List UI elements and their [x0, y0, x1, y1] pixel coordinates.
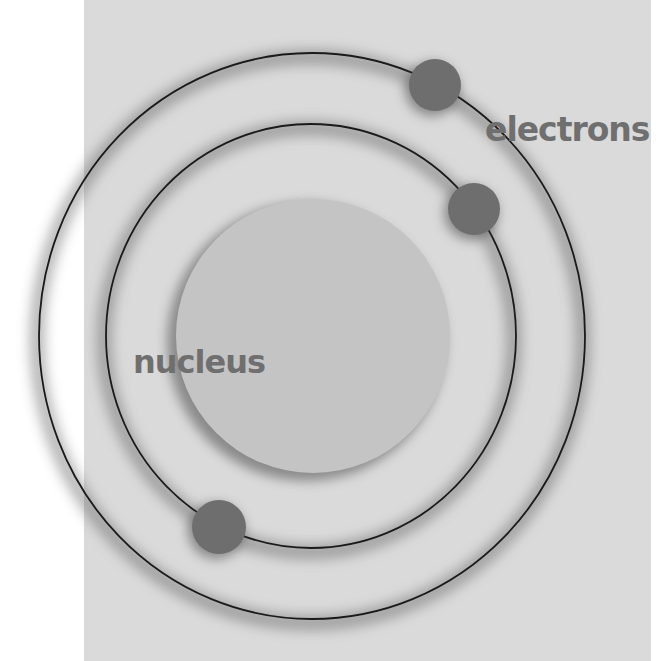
atom-diagram: [0, 0, 666, 661]
electron-3: [188, 500, 246, 559]
electrons-label: electrons: [485, 113, 650, 146]
nucleus: [176, 199, 450, 473]
electron-1: [405, 59, 461, 116]
nucleus-label: nucleus: [133, 346, 265, 378]
